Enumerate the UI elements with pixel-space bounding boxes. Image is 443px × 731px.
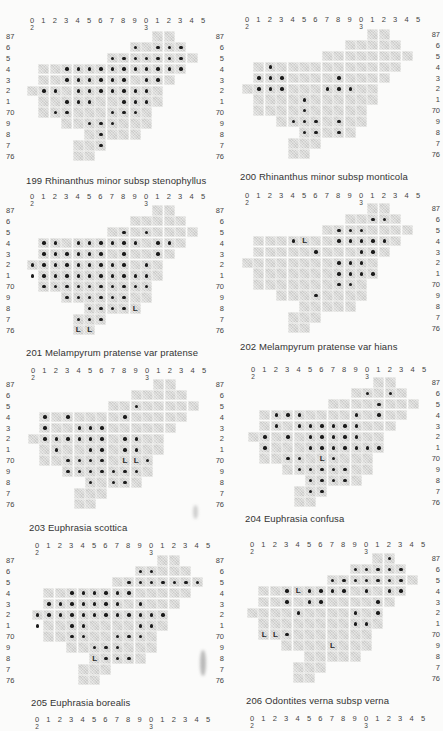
dot-icon xyxy=(122,296,125,299)
grid-square xyxy=(396,410,407,421)
grid-square xyxy=(385,377,396,388)
row-label: 2 xyxy=(6,261,10,269)
column-label-text: 6 xyxy=(313,15,317,24)
grid-square xyxy=(89,631,100,642)
grid-square xyxy=(338,629,349,640)
dot-icon xyxy=(355,424,358,427)
column-label-text: 8 xyxy=(126,715,130,724)
record-dot-icon xyxy=(107,270,118,281)
record-dot-icon xyxy=(108,466,119,477)
row-label: 87 xyxy=(6,557,14,565)
record-dot-icon xyxy=(50,281,61,292)
grid-square xyxy=(356,290,367,301)
row-label: 70 xyxy=(6,633,14,641)
dot-icon xyxy=(331,579,334,582)
grid-square xyxy=(242,258,253,269)
column-label-text: 2 xyxy=(58,715,62,724)
dot-icon xyxy=(145,263,148,266)
row-label: 7 xyxy=(6,490,10,498)
column-label: 5 xyxy=(89,716,100,724)
column-label: 1 xyxy=(38,17,49,25)
grid-square xyxy=(38,96,49,107)
column-label: 3 xyxy=(66,716,77,724)
grid-square xyxy=(367,94,378,105)
literature-record-glyph: L xyxy=(133,305,138,313)
dot-icon xyxy=(388,579,391,582)
record-dot-icon xyxy=(328,464,339,475)
record-dot-icon xyxy=(43,610,54,621)
column-label-subscript: 3 xyxy=(356,200,367,206)
grid-square xyxy=(165,390,176,401)
grid-square xyxy=(108,401,119,412)
column-label: 02 xyxy=(27,17,38,31)
row-label: 5 xyxy=(436,577,440,585)
record-dot-icon xyxy=(95,129,106,140)
column-label: 4 xyxy=(191,716,202,724)
record-dot-icon xyxy=(265,62,276,73)
column-label: 3 xyxy=(395,715,406,723)
grid-square xyxy=(288,149,299,160)
grid-square xyxy=(43,588,54,599)
dot-icon xyxy=(116,646,119,649)
column-label-text: 5 xyxy=(302,191,306,200)
grid-square xyxy=(356,73,367,84)
grid-square xyxy=(408,399,419,410)
column-label: 3 xyxy=(390,16,401,24)
record-dot-icon xyxy=(118,75,129,86)
literature-record-icon: L xyxy=(84,325,95,336)
dot-icon xyxy=(332,479,335,482)
grid-square xyxy=(187,53,198,64)
record-dot-icon xyxy=(73,75,84,86)
record-dot-icon xyxy=(89,610,100,621)
dot-icon xyxy=(134,241,137,244)
record-dot-icon xyxy=(130,42,141,53)
column-label-text: 2 xyxy=(273,714,277,723)
dot-icon xyxy=(88,285,91,288)
dot-icon xyxy=(360,272,363,275)
literature-record-icon: L xyxy=(130,303,141,314)
record-dot-icon xyxy=(74,434,85,445)
record-dot-icon xyxy=(316,432,327,443)
record-dot-icon xyxy=(50,260,61,271)
column-label: 5 xyxy=(89,542,100,550)
dot-icon xyxy=(156,57,159,60)
dot-icon xyxy=(104,657,107,660)
record-dot-icon xyxy=(310,127,321,138)
grid-square xyxy=(288,138,299,149)
literature-record-icon: L xyxy=(73,325,84,336)
grid-square xyxy=(118,118,129,129)
column-label: 03 xyxy=(356,192,367,206)
row-label: 9 xyxy=(436,466,440,474)
record-dot-icon xyxy=(78,588,89,599)
grid-square xyxy=(164,31,175,42)
dot-icon xyxy=(332,457,335,460)
dot-icon xyxy=(377,403,380,406)
dot-icon xyxy=(354,622,357,625)
column-label: 4 xyxy=(287,192,298,200)
record-dot-icon xyxy=(27,260,38,271)
column-label-text: 4 xyxy=(190,192,194,201)
record-dot-icon xyxy=(146,620,157,631)
row-label: 9 xyxy=(436,118,440,126)
column-label-text: 3 xyxy=(64,16,68,25)
map-caption: 204 Euphrasia confusa xyxy=(245,513,344,524)
row-label: 1 xyxy=(6,622,10,630)
column-label: 7 xyxy=(111,542,122,550)
dot-icon xyxy=(59,602,62,605)
record-dot-icon xyxy=(362,442,373,453)
column-label-text: 2 xyxy=(387,714,391,723)
column-label: 5 xyxy=(304,715,315,723)
row-label: 2 xyxy=(436,259,440,267)
dot-icon xyxy=(89,481,92,484)
row-label: 70 xyxy=(432,281,440,289)
grid-square xyxy=(73,118,84,129)
column-label: 03 xyxy=(142,367,153,381)
column-label: 1 xyxy=(157,542,168,550)
dot-icon xyxy=(104,602,107,605)
grid-square xyxy=(84,140,95,151)
record-dot-icon xyxy=(112,642,123,653)
literature-record-glyph: L xyxy=(320,455,325,463)
column-label-text: 9 xyxy=(348,191,352,200)
map-caption: 203 Euphrasia scottica xyxy=(29,522,127,533)
dot-icon xyxy=(42,274,45,277)
